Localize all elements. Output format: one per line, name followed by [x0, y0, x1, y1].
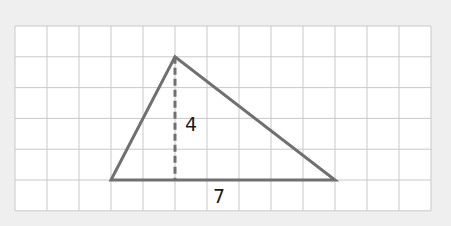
triangle-grid-figure	[0, 0, 451, 226]
grid	[15, 26, 431, 211]
diagram-canvas: 4 7	[0, 0, 451, 226]
base-label: 7	[213, 187, 225, 206]
height-label: 4	[185, 115, 197, 134]
